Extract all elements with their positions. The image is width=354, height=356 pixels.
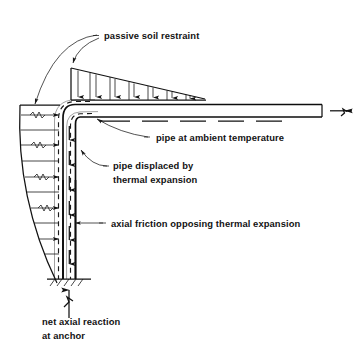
label-pipe-at-ambient-temperature: pipe at ambient temperature bbox=[156, 132, 284, 143]
diagram-canvas: passive soil restraint pipe at ambient t… bbox=[0, 0, 354, 356]
pipe-break-symbol bbox=[330, 109, 352, 116]
label-pipe-displaced-line1: pipe displaced by bbox=[113, 160, 194, 171]
label-passive-soil-restraint: passive soil restraint bbox=[104, 30, 199, 41]
engineering-diagram: passive soil restraint pipe at ambient t… bbox=[0, 0, 354, 356]
net-axial-reaction-arrow bbox=[64, 290, 73, 318]
label-net-axial-reaction-line1: net axial reaction bbox=[42, 316, 120, 327]
horizontal-soil-pressure-wedge bbox=[71, 68, 206, 100]
vertical-soil-pressure-wedge bbox=[20, 105, 60, 283]
horizontal-pipe bbox=[86, 105, 322, 118]
label-net-axial-reaction-line2: at anchor bbox=[42, 330, 85, 341]
leader-lines bbox=[35, 35, 150, 223]
label-pipe-displaced-line2: thermal expansion bbox=[113, 174, 198, 185]
label-axial-friction: axial friction opposing thermal expansio… bbox=[111, 218, 300, 229]
anchor-fixity-hatching bbox=[47, 279, 91, 286]
